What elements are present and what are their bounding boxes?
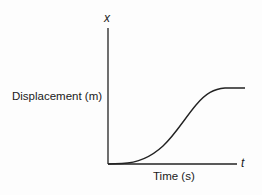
displacement-curve xyxy=(108,88,245,164)
x-axis-label: Time (s) xyxy=(153,170,195,182)
x-axis-symbol: t xyxy=(241,156,244,170)
y-axis-symbol: x xyxy=(104,11,110,25)
y-axis-label: Displacement (m) xyxy=(12,90,102,102)
